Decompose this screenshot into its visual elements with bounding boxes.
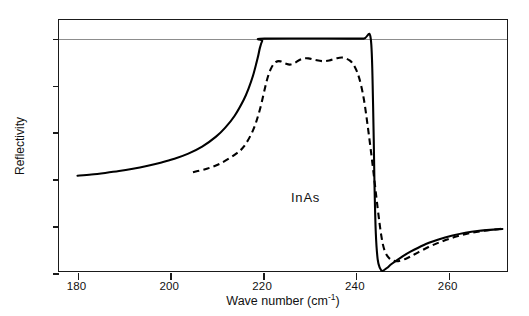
- x-tick-label-1: 200: [159, 280, 179, 292]
- x-axis-label-exponent: -1: [328, 292, 336, 302]
- x-tick-1: [170, 273, 172, 280]
- curves-svg: [59, 20, 507, 271]
- x-tick-2: [263, 273, 265, 280]
- x-axis-label-paren: ): [336, 294, 340, 308]
- x-tick-label-4: 260: [438, 280, 458, 292]
- y-axis-label: Reflectivity: [13, 71, 27, 221]
- y-tick-5: [53, 39, 59, 41]
- x-axis-label: Wave number (cm-1): [58, 292, 508, 308]
- x-tick-3: [356, 273, 358, 280]
- x-tick-label-3: 240: [345, 280, 365, 292]
- sample-annotation-inas: InAs: [291, 190, 320, 205]
- y-tick-4: [53, 86, 59, 88]
- plot-area: InAs: [58, 19, 508, 272]
- y-axis-label-wrapper: Reflectivity: [14, 19, 30, 272]
- y-tick-2: [53, 179, 59, 181]
- x-tick-label-2: 220: [252, 280, 272, 292]
- curve-solid-theoretical: [77, 34, 502, 271]
- curve-dashed-experimental: [193, 58, 502, 262]
- reflectivity-chart-figure: Reflectivity InAs 00,20,40,60,81 1802002…: [0, 0, 529, 316]
- x-tick-4: [449, 273, 451, 280]
- x-axis-label-text: Wave number (cm: [226, 294, 328, 308]
- y-tick-1: [53, 226, 59, 228]
- y-tick-0: [53, 273, 59, 275]
- y-tick-3: [53, 132, 59, 134]
- x-tick-0: [78, 273, 80, 280]
- x-tick-label-0: 180: [67, 280, 87, 292]
